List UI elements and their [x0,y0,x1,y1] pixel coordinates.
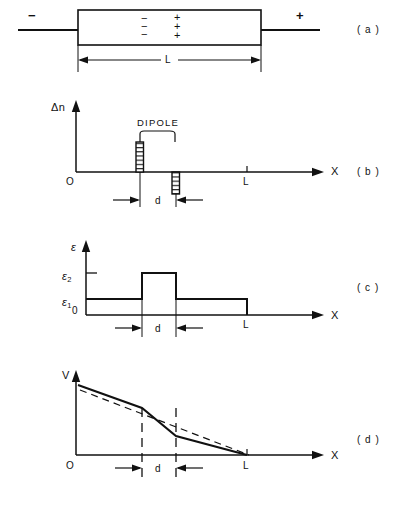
panel-c-eps2-subscript: 2 [67,275,71,284]
panel-c-eps1-subscript: 1 [67,301,71,310]
dipole-bracket [140,131,175,142]
panel-c-x-axis-label: X [331,309,339,321]
panel-b-y-arrow-icon [72,100,80,112]
figure-vector-layer [0,0,408,515]
panel-c-level-low: ε1 [62,292,71,310]
device-body-rect [78,10,261,45]
panel-b-d-arrowhead-right-icon [176,196,186,203]
panel-c-dimension-label-d: d [155,323,161,334]
panel-d-x-axis-label: X [331,449,339,461]
negative-charge-group: − − − [141,15,148,38]
negative-charge-bar [172,172,180,194]
panel-b-y-axis-label: Δn [51,101,65,113]
panel-d-dimension-label-d: d [155,463,161,474]
panel-b-x-arrow-icon [312,168,324,176]
panel-c-length-label: L [243,319,249,330]
panel-b-group [72,100,324,207]
panel-a-dimension-label-L: L [165,54,171,65]
dim-arrow-left-icon [78,56,88,63]
panel-d-origin-label: O [66,460,74,471]
panel-c-group [82,240,324,337]
panel-b-d-arrowhead-left-icon [130,196,140,203]
figure-canvas: − + − − − + + + L ( a ) Δn DIPOLE O L X … [0,0,408,515]
panel-d-d-arrowhead-left-icon [132,464,142,471]
panel-c-level-high: ε2 [62,266,71,284]
potential-solid-curve [78,385,247,455]
positive-charge-bar [136,142,144,172]
panel-b-length-label: L [243,176,249,187]
panel-b-dimension-label-d: d [155,195,161,206]
panel-d-d-arrowhead-right-icon [176,464,186,471]
dim-arrow-right-icon [251,56,261,63]
panel-b-tag: ( b ) [357,166,380,177]
panel-b-x-axis-label: X [331,165,339,177]
panel-c-tag: ( c ) [357,282,379,293]
panel-c-d-arrowhead-left-icon [132,324,142,331]
panel-d-length-label: L [243,460,249,471]
panel-c-y-axis-label: ε [71,241,76,253]
positive-charge-group: + + + [174,13,181,40]
panel-c-y-arrow-icon [82,240,90,252]
potential-dashed-reference [80,390,249,455]
left-terminal-sign: − [28,9,36,22]
panel-c-origin-label: 0 [72,305,78,316]
panel-d-tag: ( d ) [357,434,380,445]
panel-d-y-axis-label: V [62,369,70,381]
panel-c-x-arrow-icon [312,311,324,319]
panel-c-d-arrowhead-right-icon [176,324,186,331]
panel-b-origin-label: O [66,176,74,187]
electric-field-step-curve [86,273,247,315]
right-terminal-sign: + [296,9,304,22]
panel-d-group [72,370,324,478]
panel-d-x-arrow-icon [312,451,324,459]
negative-charge-row-3: − [141,31,148,38]
positive-charge-row-3: + [174,31,181,40]
panel-a-tag: ( a ) [357,24,380,35]
dipole-annotation-label: DIPOLE [137,117,179,128]
panel-d-y-arrow-icon [72,370,80,382]
